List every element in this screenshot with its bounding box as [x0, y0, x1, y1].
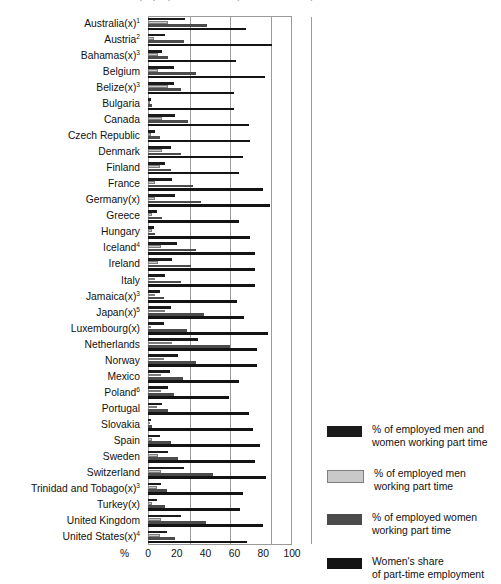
- bar-share: [148, 156, 243, 159]
- bar-share: [148, 60, 236, 63]
- country-group: [148, 128, 292, 144]
- country-group: [148, 192, 292, 208]
- bar-share: [148, 300, 237, 303]
- country-group: [148, 321, 292, 337]
- bar-share: [148, 140, 250, 143]
- legend-entry: Women's share of part-time employment: [327, 556, 499, 584]
- country-group: [148, 64, 292, 80]
- category-label: Portugal: [102, 403, 140, 414]
- category-label: Japan(x)5: [96, 307, 140, 318]
- bar-share: [148, 412, 249, 415]
- country-group: [148, 417, 292, 433]
- x-tick-label-40: 40: [200, 548, 211, 559]
- category-labels: Australia(x)1Austria2Bahamas(x)3BelgiumB…: [0, 16, 145, 545]
- country-group: [148, 176, 292, 192]
- country-group: [148, 305, 292, 321]
- legend-label: Women's share of part-time employment: [372, 556, 484, 581]
- category-label: Belgium: [103, 66, 140, 77]
- bar-share: [148, 364, 257, 367]
- country-group: [148, 224, 292, 240]
- legend-entry: % of employed women working part time: [327, 512, 499, 544]
- category-label: Norway: [105, 355, 140, 366]
- bar-share: [148, 124, 249, 127]
- legend-swatch-total: [327, 426, 362, 437]
- bar-share: [148, 108, 234, 111]
- bar-share: [148, 188, 263, 191]
- legend-swatch-women: [327, 514, 362, 525]
- x-axis-unit-label: %: [120, 548, 129, 559]
- category-label: United Kingdom: [67, 515, 140, 526]
- category-label: Netherlands: [84, 339, 140, 350]
- country-group: [148, 353, 292, 369]
- country-group: [148, 208, 292, 224]
- category-label: United States(x)4: [63, 531, 141, 542]
- category-label: Bulgaria: [102, 98, 140, 109]
- bar-share: [148, 444, 260, 447]
- legend-entry: % of employed men working part time: [327, 468, 499, 500]
- country-group: [148, 289, 292, 305]
- bar-rows: [148, 16, 292, 545]
- bar-share: [148, 476, 266, 479]
- bar-share: [148, 172, 239, 175]
- category-label: Spain: [114, 435, 140, 446]
- bar-share: [148, 524, 263, 527]
- country-group: [148, 160, 292, 176]
- bar-share: [148, 492, 243, 495]
- country-group: [148, 401, 292, 417]
- category-label: Czech Republic: [68, 130, 140, 141]
- category-label: Australia(x)1: [84, 18, 140, 29]
- bar-share: [148, 508, 240, 511]
- bar-share: [148, 284, 255, 287]
- category-label: Poland6: [104, 387, 140, 398]
- country-group: [148, 433, 292, 449]
- legend-entry: % of employed men and women working part…: [327, 424, 499, 456]
- category-label: Turkey(x): [97, 499, 140, 510]
- country-group: [148, 465, 292, 481]
- country-group: [148, 80, 292, 96]
- country-group: [148, 385, 292, 401]
- legend-label: % of employed men working part time: [374, 468, 466, 493]
- bar-share: [148, 428, 253, 431]
- category-label: Finland: [106, 162, 140, 173]
- bar-share: [148, 28, 246, 31]
- bar-share: [148, 332, 268, 335]
- category-label: Sweden: [103, 451, 140, 462]
- category-label: Trinidad and Tobago(x)3: [31, 483, 140, 494]
- x-tick-label-0: 0: [145, 548, 151, 559]
- bar-share: [148, 396, 229, 399]
- country-group: [148, 32, 292, 48]
- country-group: [148, 16, 292, 32]
- bar-share: [148, 44, 272, 47]
- country-group: [148, 513, 292, 529]
- bar-share: [148, 76, 265, 79]
- bar-share: [148, 220, 239, 223]
- category-label: Iceland4: [103, 242, 140, 253]
- category-label: Luxembourg(x): [71, 323, 140, 334]
- country-group: [148, 369, 292, 385]
- category-label: Bahamas(x)3: [81, 50, 140, 61]
- legend-swatch-share: [327, 558, 362, 569]
- bar-share: [148, 236, 250, 239]
- category-label: Mexico: [107, 371, 140, 382]
- country-group: [148, 337, 292, 353]
- x-tick-label-100: 100: [283, 548, 300, 559]
- country-group: [148, 449, 292, 465]
- bar-share: [148, 204, 270, 207]
- bar-share: [148, 348, 257, 351]
- category-label: Jamaica(x)3: [86, 291, 140, 302]
- category-label: Austria2: [104, 34, 140, 45]
- gridline-80: [311, 17, 312, 544]
- x-axis: % 020406080100: [120, 548, 320, 564]
- bar-share: [148, 380, 239, 383]
- category-label: Greece: [106, 210, 140, 221]
- country-group: [148, 144, 292, 160]
- country-group: [148, 112, 292, 128]
- bar-share: [148, 252, 255, 255]
- category-label: Ireland: [109, 258, 140, 269]
- chart-title: Employed part-time workers (selected cou…: [95, 0, 345, 1]
- country-group: [148, 48, 292, 64]
- bar-share: [148, 268, 255, 271]
- category-label: Canada: [104, 114, 140, 125]
- bar-share: [148, 541, 247, 544]
